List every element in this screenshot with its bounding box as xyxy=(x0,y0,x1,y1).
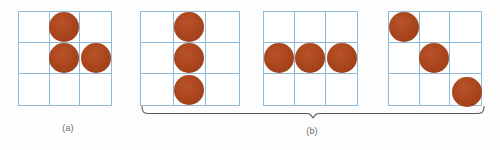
grid-cell-r3c3 xyxy=(80,74,111,105)
disc xyxy=(49,43,79,73)
disc xyxy=(174,12,204,42)
grid-cell-r2c3 xyxy=(206,43,239,74)
group-brace xyxy=(140,106,486,120)
grid-cell-r1c2 xyxy=(50,12,81,43)
disc xyxy=(174,43,204,73)
disc xyxy=(49,12,79,42)
grid-cell-r1c3 xyxy=(326,12,357,43)
grid-cell-r2c2 xyxy=(295,43,326,74)
grid-cell-r1c2 xyxy=(295,12,326,43)
grid-cell-r2c1 xyxy=(264,43,295,74)
grid-cell-r1c1 xyxy=(141,12,174,43)
grid-cell-r2c3 xyxy=(326,43,357,74)
grid-cell-r3c3 xyxy=(206,74,239,105)
panel-b-label: (b) xyxy=(306,126,318,136)
grid-cell-r1c3 xyxy=(450,12,481,43)
grid-cell-r3c1 xyxy=(141,74,174,105)
disc xyxy=(327,43,357,73)
figure-root: (a) xyxy=(0,0,500,150)
grid-cell-r1c2 xyxy=(420,12,451,43)
disc xyxy=(264,43,294,73)
grid-cell-r2c3 xyxy=(450,43,481,74)
grid-cell-r2c2 xyxy=(420,43,451,74)
grid-cell-r3c3 xyxy=(450,74,481,105)
grid-cell-r3c3 xyxy=(326,74,357,105)
grid-cell-r3c1 xyxy=(19,74,50,105)
grid-cell-r3c2 xyxy=(295,74,326,105)
grid-cell-r1c1 xyxy=(389,12,420,43)
grid-panel-b2 xyxy=(263,11,358,106)
grid-cell-r2c1 xyxy=(389,43,420,74)
grid-cell-r3c2 xyxy=(50,74,81,105)
disc xyxy=(419,43,449,73)
grid-cell-r3c1 xyxy=(389,74,420,105)
grid-panel-a xyxy=(18,11,112,106)
grid-cell-r2c2 xyxy=(50,43,81,74)
disc xyxy=(452,77,482,107)
panel-a-label: (a) xyxy=(62,123,74,133)
grid-cell-r1c3 xyxy=(206,12,239,43)
grid-cell-r1c1 xyxy=(19,12,50,43)
grid-cell-r3c2 xyxy=(420,74,451,105)
grid-cell-r3c1 xyxy=(264,74,295,105)
grid-panel-b3 xyxy=(388,11,482,106)
disc xyxy=(174,75,204,105)
disc xyxy=(295,43,325,73)
grid-cell-r2c1 xyxy=(141,43,174,74)
grid-panel-b1 xyxy=(140,11,240,106)
disc xyxy=(81,43,111,73)
disc xyxy=(389,12,419,42)
grid-cell-r1c1 xyxy=(264,12,295,43)
grid-cell-r2c2 xyxy=(174,43,207,74)
grid-cell-r1c3 xyxy=(80,12,111,43)
grid-cell-r2c1 xyxy=(19,43,50,74)
grid-cell-r3c2 xyxy=(174,74,207,105)
grid-cell-r2c3 xyxy=(80,43,111,74)
grid-cell-r1c2 xyxy=(174,12,207,43)
